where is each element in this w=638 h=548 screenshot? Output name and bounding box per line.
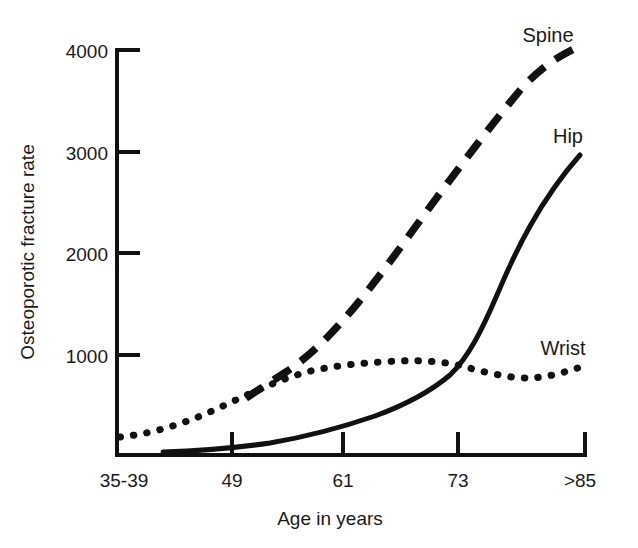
y-tick-label-1000: 1000 (66, 346, 108, 367)
y-tick-label-2000: 2000 (66, 244, 108, 265)
series-label-spine: Spine (522, 24, 573, 46)
chart-background (0, 0, 638, 548)
chart-figure: 4000 3000 2000 1000 35-39 49 61 73 >85 A… (0, 0, 638, 548)
x-tick-label-61: 61 (332, 470, 353, 491)
y-axis-title: Osteoporotic fracture rate (17, 144, 38, 359)
y-tick-label-4000: 4000 (66, 41, 108, 62)
series-label-hip: Hip (553, 125, 583, 147)
x-axis-title: Age in years (277, 508, 383, 529)
series-label-wrist: Wrist (540, 337, 586, 359)
osteoporotic-fracture-rate-chart: 4000 3000 2000 1000 35-39 49 61 73 >85 A… (0, 0, 638, 548)
x-tick-label-73: 73 (447, 470, 468, 491)
x-tick-label-35-39: 35-39 (100, 470, 149, 491)
y-tick-label-3000: 3000 (66, 143, 108, 164)
x-tick-label-49: 49 (221, 470, 242, 491)
x-tick-label-85: >85 (564, 470, 596, 491)
